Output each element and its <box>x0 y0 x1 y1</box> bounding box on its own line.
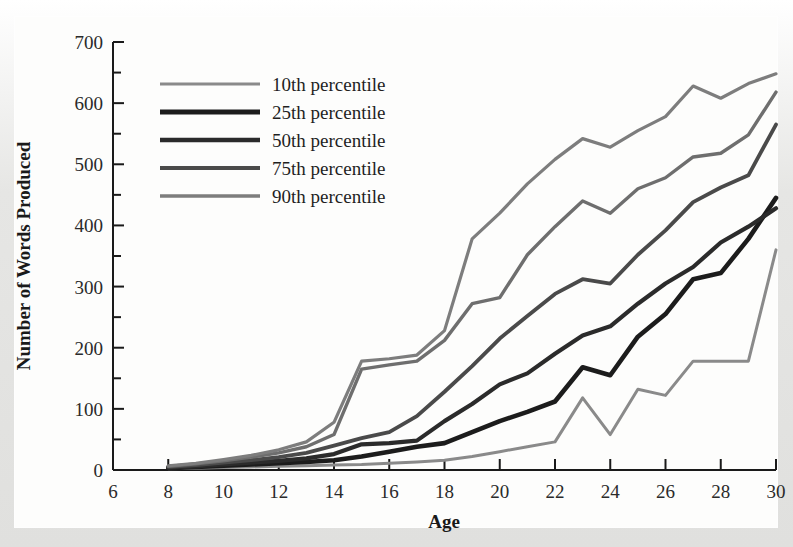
series-line <box>168 125 776 467</box>
y-axis-ticks <box>113 42 124 470</box>
legend-label: 25th percentile <box>272 102 385 123</box>
legend-label: 50th percentile <box>272 130 385 151</box>
y-axis-tick-labels: 0100200300400500600700 <box>75 32 104 481</box>
x-tick-label: 24 <box>601 481 621 502</box>
x-tick-label: 12 <box>269 481 288 502</box>
x-tick-label: 18 <box>435 481 454 502</box>
y-tick-label: 400 <box>75 215 104 236</box>
series-line <box>168 92 776 466</box>
series-line <box>168 208 776 467</box>
x-tick-label: 6 <box>108 481 118 502</box>
y-tick-label: 300 <box>75 277 104 298</box>
legend-label: 10th percentile <box>272 74 385 95</box>
y-tick-label: 700 <box>75 32 104 53</box>
x-tick-label: 8 <box>164 481 174 502</box>
chart-screenshot: 0100200300400500600700 68101214161820222… <box>0 0 793 547</box>
legend-label: 90th percentile <box>272 186 385 207</box>
x-axis-tick-labels: 681012141618202224262830 <box>108 481 785 502</box>
y-tick-label: 500 <box>75 154 104 175</box>
x-tick-label: 30 <box>767 481 786 502</box>
line-chart: 0100200300400500600700 68101214161820222… <box>0 0 793 547</box>
legend-label: 75th percentile <box>272 158 385 179</box>
y-axis-title: Number of Words Produced <box>13 141 34 370</box>
x-axis-title: Age <box>428 511 460 532</box>
x-tick-label: 14 <box>325 481 345 502</box>
y-tick-label: 200 <box>75 338 104 359</box>
x-tick-label: 10 <box>214 481 233 502</box>
y-tick-label: 0 <box>94 460 104 481</box>
series-line <box>168 250 776 469</box>
y-tick-label: 600 <box>75 93 104 114</box>
chart-canvas: 0100200300400500600700 68101214161820222… <box>0 0 793 547</box>
x-tick-label: 22 <box>546 481 565 502</box>
series-lines <box>168 74 776 469</box>
x-tick-label: 20 <box>490 481 509 502</box>
x-tick-label: 28 <box>711 481 730 502</box>
y-tick-label: 100 <box>75 399 104 420</box>
legend: 10th percentile25th percentile50th perce… <box>160 74 385 207</box>
x-tick-label: 26 <box>656 481 675 502</box>
x-tick-label: 16 <box>380 481 399 502</box>
